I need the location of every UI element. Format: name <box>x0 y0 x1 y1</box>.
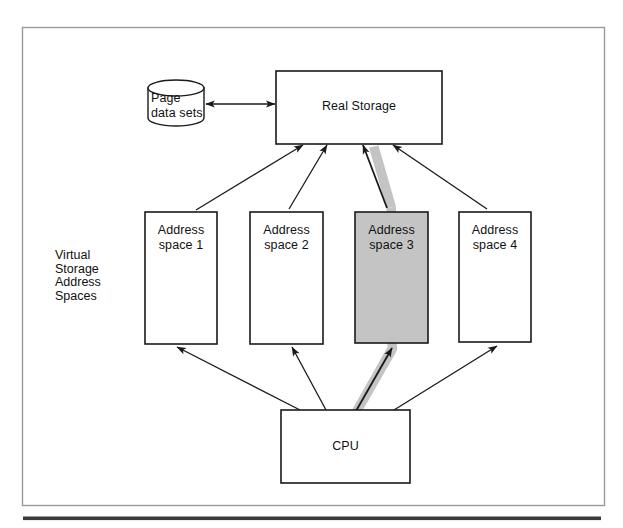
address-space-4-label: Address space 4 <box>459 223 531 252</box>
address-space-2-label: Address space 2 <box>250 223 323 252</box>
connector-address-space-2-to-real-storage <box>289 145 327 209</box>
real-storage-label: Real Storage <box>276 99 442 114</box>
address-space-3-label: Address space 3 <box>355 223 428 252</box>
page-data-sets-label: Page data sets <box>151 91 211 120</box>
diagram-root: Page data sets Real Storage Address spac… <box>0 0 623 528</box>
cpu-label: CPU <box>281 439 410 454</box>
connector-cpu-to-address-space-3 <box>356 348 392 411</box>
bottom-rule <box>23 517 601 521</box>
connector-address-space-4-to-real-storage <box>393 145 487 209</box>
address-space-1-label: Address space 1 <box>145 223 217 252</box>
virtual-storage-address-spaces-label: Virtual Storage Address Spaces <box>55 249 135 303</box>
connector-cpu-to-address-space-4 <box>394 346 497 410</box>
connector-cpu-to-address-space-2 <box>292 347 326 410</box>
connector-address-space-1-to-real-storage <box>196 145 303 210</box>
connector-cpu-to-address-space-1 <box>177 347 300 410</box>
